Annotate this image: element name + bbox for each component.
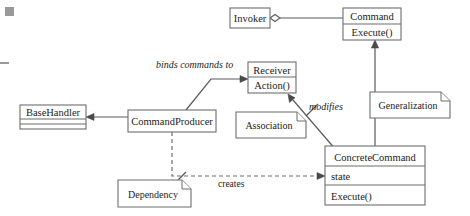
edge-commandproducer-receiver <box>186 79 241 110</box>
class-concrete-command-operation-execute: Execute() <box>331 191 372 203</box>
aggregation-diamond-invoker <box>270 15 280 22</box>
class-base-handler-name: BaseHandler <box>26 107 81 118</box>
note-generalization[interactable]: Generalization <box>370 92 450 118</box>
class-command[interactable]: Command Execute() <box>343 8 401 40</box>
note-generalization-label: Generalization <box>379 100 438 111</box>
class-command-operation-execute: Execute() <box>352 27 393 39</box>
uml-class-diagram: BaseHandler (association arrow left) -->… <box>0 0 470 216</box>
class-command-name: Command <box>350 11 394 22</box>
class-receiver-name: Receiver <box>253 65 291 76</box>
class-concrete-command[interactable]: ConcreteCommand state Execute() <box>325 146 425 205</box>
dependency-arrowhead-concretecommand <box>317 173 325 180</box>
edge-label-modifies: modifies <box>309 101 343 112</box>
class-concrete-command-name: ConcreteCommand <box>334 152 416 163</box>
class-command-producer[interactable]: CommandProducer <box>128 110 216 132</box>
class-receiver-operation-action: Action() <box>254 80 290 92</box>
diagram-canvas: BaseHandler (association arrow left) -->… <box>0 0 470 216</box>
note-dependency-fold <box>182 180 191 189</box>
association-arrowhead-basehandler <box>86 114 94 121</box>
note-association[interactable]: Association <box>236 112 306 138</box>
note-association-label: Association <box>245 120 292 131</box>
class-base-handler[interactable]: BaseHandler <box>20 105 86 129</box>
edge-label-creates: creates <box>218 179 245 189</box>
generalization-arrowhead-command <box>371 40 378 48</box>
note-dependency[interactable]: Dependency <box>118 180 191 207</box>
note-dependency-label: Dependency <box>128 189 178 200</box>
class-receiver[interactable]: Receiver Action() <box>248 62 296 93</box>
class-concrete-command-attribute-state: state <box>331 171 351 182</box>
edge-label-binds-commands-to: binds commands to <box>156 59 233 70</box>
class-command-producer-name: CommandProducer <box>131 116 213 127</box>
class-invoker-name: Invoker <box>234 13 267 24</box>
class-invoker[interactable]: Invoker <box>230 8 270 28</box>
association-arrowhead-receiver <box>240 76 248 83</box>
edge-commandproducer-concretecommand <box>172 132 318 176</box>
